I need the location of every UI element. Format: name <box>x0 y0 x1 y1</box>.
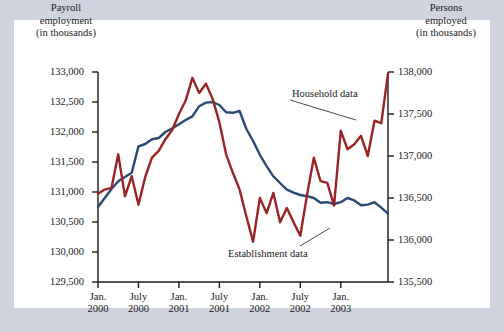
chart-axes <box>92 72 394 288</box>
chart-series-lines <box>98 74 388 242</box>
establishment-leader-line <box>300 228 330 246</box>
annotation-leader-lines <box>290 100 356 246</box>
household-leader-line <box>290 100 356 120</box>
chart-plot <box>0 0 504 332</box>
series-line-household-data <box>98 74 388 242</box>
